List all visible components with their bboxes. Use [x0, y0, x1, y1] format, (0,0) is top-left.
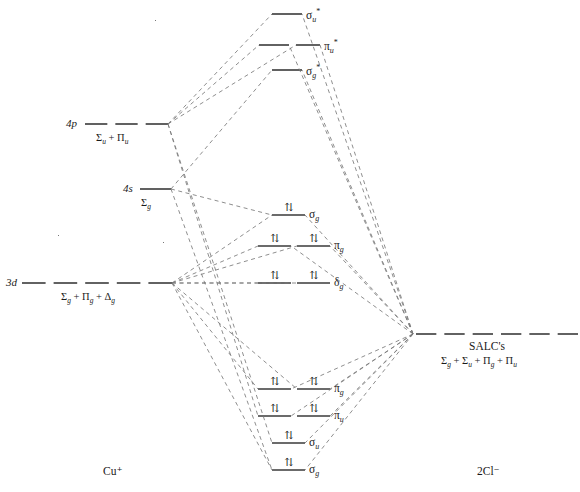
correlation-line: [171, 70, 272, 189]
fragment-label-right: 2Cl⁻: [477, 466, 500, 478]
correlation-line: [168, 45, 259, 124]
correlation-line: [289, 45, 413, 334]
scan-speck: [58, 235, 59, 236]
ao-label-4p: 4p: [66, 118, 77, 129]
mo-label-delta-g: δg: [334, 277, 343, 291]
mo-label-pi-u-bonding: πu: [334, 410, 344, 424]
correlation-line: [291, 246, 413, 334]
scan-speck: [163, 242, 164, 243]
correlation-line: [305, 334, 413, 470]
electron-pair: ⇅: [271, 376, 280, 387]
electron-pair: ⇅: [310, 403, 319, 414]
electron-pair: ⇅: [310, 233, 319, 244]
electron-pair: ⇅: [271, 270, 280, 281]
scan-speck: [155, 20, 156, 21]
correlation-line: [305, 215, 413, 334]
correlation-lines: [168, 14, 413, 470]
salc-title: SALC's: [469, 341, 505, 353]
electron-pair: ⇅: [271, 403, 280, 414]
correlation-line: [305, 334, 413, 443]
mo-diagram: 4p Σu + Πu 4s Σg 3d Σg + Πg + Δg SALC's …: [0, 0, 580, 492]
correlation-line: [171, 189, 272, 470]
ao-label-3d: 3d: [6, 277, 17, 288]
correlation-line: [172, 283, 297, 389]
correlation-line: [302, 14, 413, 334]
mo-label-sigma-u-star: σu*: [306, 8, 320, 24]
fragment-label-left: Cu⁺: [103, 466, 123, 478]
mo-label-sigma-g-star: σg*: [306, 64, 320, 80]
correlation-line: [171, 189, 272, 215]
mo-label-pi-g: πg: [334, 240, 344, 254]
electron-pair: ⇅: [285, 202, 294, 213]
ao-label-4s: 4s: [123, 183, 133, 194]
correlation-line: [168, 124, 258, 416]
correlation-line: [168, 45, 296, 124]
mo-label-sigma-u-bonding: σu: [309, 437, 319, 451]
correlation-line: [172, 246, 258, 283]
electron-pair: ⇅: [271, 233, 280, 244]
electron-pair: ⇅: [310, 376, 319, 387]
mo-label-sigma-g-bonding-mid: σg: [309, 209, 319, 223]
ao-term-4p: Σu + Πu: [96, 133, 128, 146]
correlation-line: [168, 124, 272, 443]
correlation-line: [172, 283, 258, 389]
salc-term: Σg + Σu + Πg + Πu: [441, 356, 517, 369]
mo-label-sigma-g-bonding: σg: [309, 464, 319, 478]
electron-pair: ⇅: [285, 457, 294, 468]
electron-pair: ⇅: [310, 270, 319, 281]
correlation-line: [172, 215, 272, 283]
correlation-line: [330, 334, 413, 416]
correlation-line: [168, 14, 272, 124]
correlation-line: [172, 283, 272, 470]
mo-label-pi-g-bonding: πg: [334, 383, 344, 397]
diagram-lines: [0, 0, 580, 492]
ao-term-4s: Σg: [141, 198, 151, 211]
electron-pair: ⇅: [285, 430, 294, 441]
ao-term-3d: Σg + Πg + Δg: [61, 292, 115, 305]
correlation-line: [302, 70, 413, 334]
mo-label-pi-u-star: πu*: [324, 39, 338, 55]
correlation-line: [330, 334, 413, 389]
